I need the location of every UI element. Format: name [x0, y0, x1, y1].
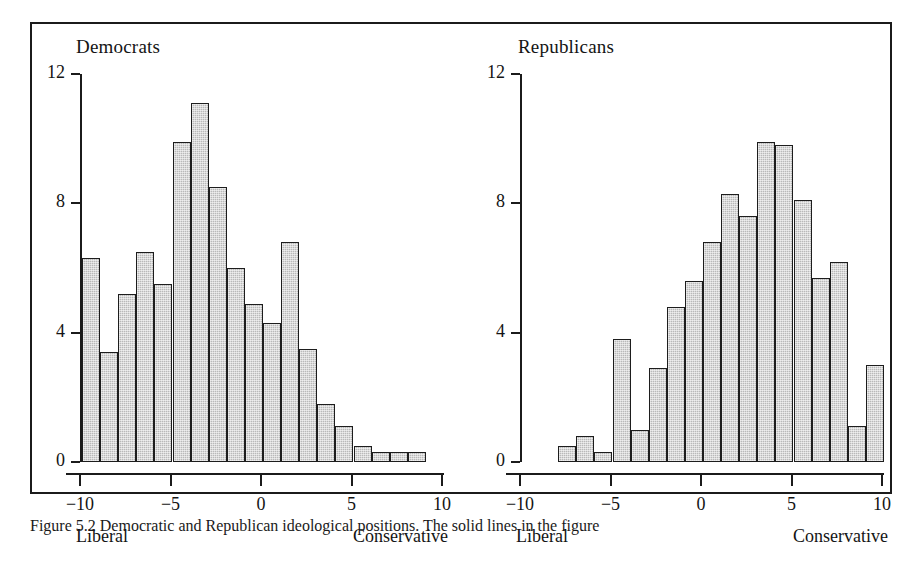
histogram-bar: [209, 187, 227, 462]
histogram-bar: [82, 258, 100, 462]
x-axis-tick-label: 0: [257, 494, 266, 514]
x-axis-line: [66, 473, 444, 475]
y-axis-tick-label: 4: [56, 321, 65, 341]
chart-panel-democrats: Democrats 04812 −10−50510 Liberal Conser…: [32, 24, 462, 492]
bars-republicans: [522, 74, 884, 462]
histogram-bar: [317, 404, 335, 462]
histogram-bar: [812, 278, 830, 462]
histogram-bar: [703, 242, 721, 462]
histogram-bar: [594, 452, 612, 462]
histogram-bar: [118, 294, 136, 462]
histogram-bar: [372, 452, 390, 462]
histogram-bar: [154, 284, 172, 462]
histogram-bar: [739, 216, 757, 462]
x-axis-tick: [791, 475, 793, 486]
x-axis-tick: [519, 475, 521, 486]
y-axis-tick: 8: [71, 202, 80, 204]
y-axis-tick: 12: [71, 73, 80, 75]
histogram-bar: [649, 368, 667, 462]
x-axis-tick-label: −10: [66, 494, 94, 514]
y-axis-tick: 0: [71, 461, 80, 463]
histogram-bar: [354, 446, 372, 462]
x-axis-tick-label: 5: [347, 494, 356, 514]
y-axis-tick: 8: [511, 202, 520, 204]
x-axis-tick: [351, 475, 353, 486]
x-axis-tick: [260, 475, 262, 486]
plot-area-democrats: 04812 −10−50510 Liberal Conservative: [80, 74, 442, 462]
x-axis-tick-label: 10: [873, 494, 891, 514]
x-axis-tick: [170, 475, 172, 486]
x-axis-tick-label: −5: [161, 494, 180, 514]
chart-panel-republicans: Republicans 04812 −10−50510 Liberal Cons…: [452, 24, 892, 492]
y-axis-tick-label: 0: [56, 450, 65, 470]
histogram-bar: [408, 452, 426, 462]
x-axis-line: [506, 473, 884, 475]
figure-caption: Figure 5.2 Democratic and Republican ide…: [30, 516, 900, 542]
x-axis-tick-label: 10: [433, 494, 451, 514]
chart-title-republicans: Republicans: [518, 36, 614, 58]
x-axis-tick-label: 5: [787, 494, 796, 514]
y-axis-tick-label: 8: [56, 191, 65, 211]
y-axis-tick: 12: [511, 73, 520, 75]
y-axis-tick: 0: [511, 461, 520, 463]
x-axis-tick-label: −10: [506, 494, 534, 514]
histogram-bar: [631, 430, 649, 462]
histogram-bar: [281, 242, 299, 462]
bars-democrats: [82, 74, 444, 462]
histogram-bar: [245, 304, 263, 462]
histogram-bar: [558, 446, 576, 462]
histogram-bar: [830, 262, 848, 462]
figure-frame: Democrats 04812 −10−50510 Liberal Conser…: [30, 22, 892, 494]
x-axis-tick: [700, 475, 702, 486]
histogram-bar: [757, 142, 775, 462]
histogram-bar: [866, 365, 884, 462]
histogram-bar: [335, 426, 353, 462]
histogram-bar: [667, 307, 685, 462]
x-axis-tick: [79, 475, 81, 486]
histogram-bar: [173, 142, 191, 462]
histogram-bar: [794, 200, 812, 462]
histogram-bar: [576, 436, 594, 462]
histogram-bar: [299, 349, 317, 462]
histogram-bar: [227, 268, 245, 462]
histogram-bar: [390, 452, 408, 462]
chart-title-democrats: Democrats: [76, 36, 160, 58]
histogram-bar: [848, 426, 866, 462]
histogram-bar: [613, 339, 631, 462]
y-axis-tick-label: 0: [496, 450, 505, 470]
histogram-bar: [721, 194, 739, 462]
x-axis-tick-label: −5: [601, 494, 620, 514]
histogram-bar: [100, 352, 118, 462]
y-axis-tick: 4: [511, 332, 520, 334]
y-axis-tick-label: 4: [496, 321, 505, 341]
histogram-bar: [775, 145, 793, 462]
y-axis-tick-label: 12: [47, 62, 65, 82]
x-axis-tick: [610, 475, 612, 486]
x-axis-tick-label: 0: [697, 494, 706, 514]
y-axis-tick-label: 8: [496, 191, 505, 211]
plot-area-republicans: 04812 −10−50510 Liberal Conservative: [520, 74, 882, 462]
x-axis-tick: [441, 475, 443, 486]
y-axis-tick-label: 12: [487, 62, 505, 82]
histogram-bar: [263, 323, 281, 462]
histogram-bar: [136, 252, 154, 462]
histogram-bar: [191, 103, 209, 462]
x-axis-tick: [881, 475, 883, 486]
y-axis-tick: 4: [71, 332, 80, 334]
histogram-bar: [685, 281, 703, 462]
